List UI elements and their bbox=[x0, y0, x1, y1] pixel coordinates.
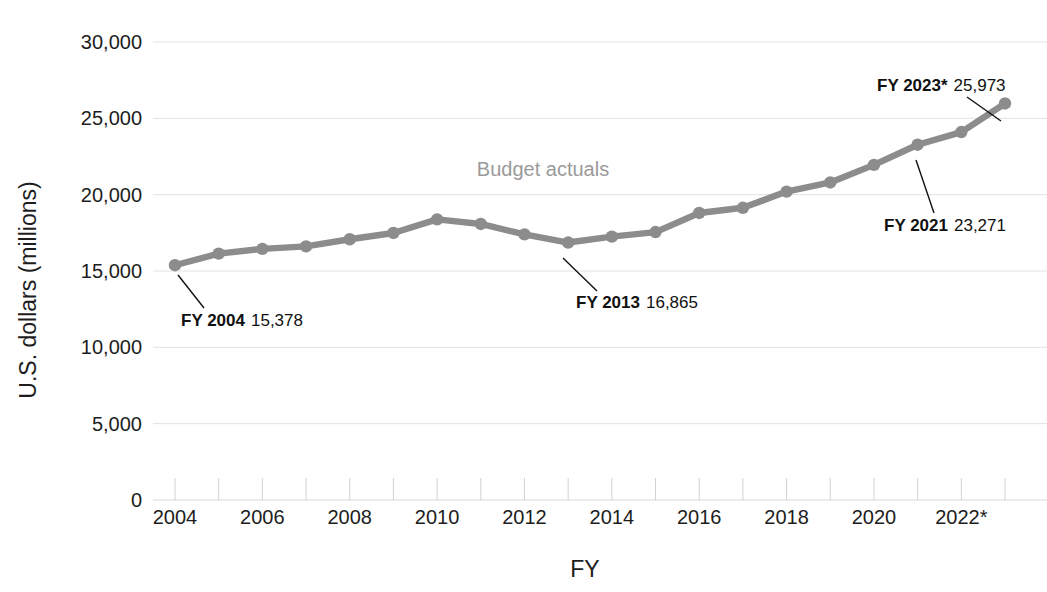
x-axis-tick-label: 2008 bbox=[327, 506, 372, 528]
y-axis-tick-label: 10,000 bbox=[81, 336, 142, 358]
data-point-marker bbox=[911, 139, 923, 151]
data-point-marker bbox=[518, 228, 530, 240]
data-point-marker bbox=[562, 236, 574, 248]
y-axis-tick-label: 30,000 bbox=[81, 31, 142, 53]
y-axis-title: U.S. dollars (millions) bbox=[15, 181, 41, 398]
annotation-value: 15,378 bbox=[251, 311, 303, 330]
y-axis-tick-label: 0 bbox=[131, 489, 142, 511]
data-point-marker bbox=[475, 218, 487, 230]
data-point-marker bbox=[693, 207, 705, 219]
data-point-marker bbox=[955, 126, 967, 138]
data-point-marker bbox=[256, 243, 268, 255]
gridlines bbox=[153, 42, 1047, 500]
y-axis-tick-label: 25,000 bbox=[81, 107, 142, 129]
data-point-marker bbox=[169, 259, 181, 271]
x-axis-tick-label: 2004 bbox=[153, 506, 198, 528]
x-axis-tick-label: 2006 bbox=[240, 506, 285, 528]
x-axis-tick-label: 2010 bbox=[415, 506, 460, 528]
x-axis-title: FY bbox=[570, 556, 599, 582]
annotation-leader-line bbox=[178, 275, 204, 308]
annotation-value: 25,973 bbox=[954, 76, 1006, 95]
data-series bbox=[175, 103, 1005, 265]
series-inline-label: Budget actuals bbox=[477, 158, 609, 180]
data-point-marker bbox=[649, 226, 661, 238]
annotation-fy-2021: FY 202123,271 bbox=[884, 216, 1006, 235]
data-point-marker bbox=[999, 97, 1011, 109]
data-point-marker bbox=[737, 202, 749, 214]
data-point-marker bbox=[300, 240, 312, 252]
line-chart: 05,00010,00015,00020,00025,00030,000 200… bbox=[0, 0, 1047, 592]
x-axis-tick-label: 2022* bbox=[935, 506, 987, 528]
data-point-marker bbox=[387, 227, 399, 239]
x-axis-tick-label: 2016 bbox=[677, 506, 722, 528]
annotation-fy-2004: FY 200415,378 bbox=[181, 311, 303, 330]
y-axis-tick-labels: 05,00010,00015,00020,00025,00030,000 bbox=[81, 31, 142, 511]
annotation-fy-2013: FY 201316,865 bbox=[576, 293, 698, 312]
x-axis-tick-label: 2012 bbox=[502, 506, 547, 528]
annotation-label: FY 2021 bbox=[884, 216, 948, 235]
data-point-marker bbox=[344, 233, 356, 245]
annotation-leader-line bbox=[916, 160, 934, 213]
y-axis-tick-label: 15,000 bbox=[81, 260, 142, 282]
data-point-marker bbox=[824, 176, 836, 188]
data-point-marker bbox=[431, 213, 443, 225]
x-axis-tick-label: 2014 bbox=[590, 506, 635, 528]
annotation-value: 23,271 bbox=[954, 216, 1006, 235]
x-axis-ticks bbox=[175, 478, 1005, 500]
data-point-marker bbox=[780, 185, 792, 197]
annotation-value: 16,865 bbox=[646, 293, 698, 312]
y-axis-tick-label: 5,000 bbox=[92, 413, 142, 435]
x-axis-tick-label: 2018 bbox=[764, 506, 809, 528]
annotation-label: FY 2023* bbox=[877, 76, 948, 95]
x-axis-tick-label: 2020 bbox=[852, 506, 897, 528]
annotation-label: FY 2004 bbox=[181, 311, 246, 330]
chart-container: 05,00010,00015,00020,00025,00030,000 200… bbox=[0, 0, 1047, 592]
y-axis-tick-label: 20,000 bbox=[81, 184, 142, 206]
annotation-label: FY 2013 bbox=[576, 293, 640, 312]
data-point-marker bbox=[212, 247, 224, 259]
annotation-fy-2023: FY 2023*25,973 bbox=[877, 76, 1006, 95]
x-axis-tick-labels: 2004200620082010201220142016201820202022… bbox=[153, 506, 988, 528]
annotation-leader-line bbox=[563, 258, 597, 291]
data-point-marker bbox=[606, 230, 618, 242]
data-point-marker bbox=[868, 159, 880, 171]
data-annotations: FY 200415,378FY 201316,865FY 202123,271F… bbox=[178, 76, 1006, 330]
series-line bbox=[175, 103, 1005, 265]
